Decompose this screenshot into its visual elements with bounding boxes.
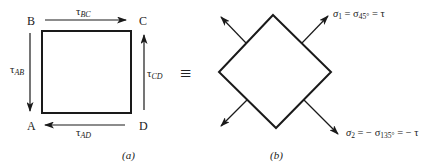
stress-element-diagram: B C A D τBC τAB τCD τAD (a) ≡ σ1 = σ45° …: [0, 0, 436, 168]
equivalence-symbol: ≡: [180, 62, 191, 84]
square-element: [42, 31, 131, 113]
tau-cd-label: τCD: [147, 67, 163, 81]
tau-ab-label: τAB: [10, 63, 24, 77]
corner-label-b: B: [27, 14, 35, 28]
tau-bc-label: τBC: [76, 5, 91, 19]
corner-label-c: C: [139, 14, 147, 28]
normal-stress-arrow-lower-left: [221, 100, 247, 126]
tau-ad-label: τAD: [76, 126, 91, 140]
normal-stress-arrow-upper-right: [302, 16, 328, 43]
caption-a: (a): [122, 149, 135, 162]
panel-a: B C A D τBC τAB τCD τAD (a): [10, 5, 163, 162]
corner-label-d: D: [139, 119, 148, 133]
sigma2-label: σ2 = − σ135° = − τ: [346, 127, 419, 140]
corner-label-a: A: [27, 119, 36, 133]
normal-stress-arrow-lower-right: [304, 100, 338, 134]
panel-b: σ1 = σ45° = τ σ2 = − σ135° = − τ (b): [219, 8, 419, 162]
sigma1-label: σ1 = σ45° = τ: [333, 8, 385, 21]
caption-b: (b): [270, 149, 283, 162]
normal-stress-arrow-upper-left: [221, 17, 246, 43]
